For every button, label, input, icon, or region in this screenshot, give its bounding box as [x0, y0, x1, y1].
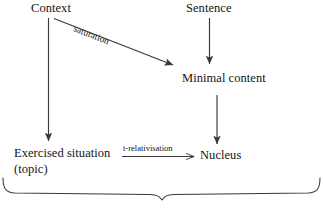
edge-context-to-minimal	[54, 19, 173, 66]
edge-label-t-relativisation: t-relativisation	[123, 143, 173, 153]
node-label-minimal-content: Minimal content	[182, 72, 266, 85]
node-label-topic: (topic)	[14, 163, 48, 176]
diagram-graphics	[0, 0, 323, 209]
diagram-canvas: Context Sentence Minimal content Exercis…	[0, 0, 323, 209]
node-label-context: Context	[31, 2, 71, 15]
node-label-nucleus: Nucleus	[200, 149, 241, 162]
node-label-exercised-situation: Exercised situation	[14, 147, 110, 160]
bottom-brace	[3, 178, 320, 200]
node-label-sentence: Sentence	[186, 2, 232, 15]
